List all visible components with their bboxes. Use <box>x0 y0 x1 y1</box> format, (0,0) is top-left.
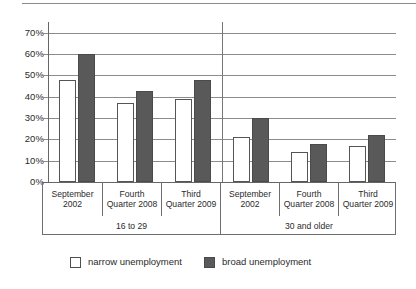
bar-broad-4 <box>310 144 327 182</box>
category-label-cell: FourthQuarter 2008 <box>102 182 161 216</box>
y-axis-tick-label: 30% <box>2 113 44 123</box>
category-label-cell: FourthQuarter 2008 <box>279 182 338 216</box>
chart-legend: narrow unemploymentbroad unemployment <box>70 255 311 269</box>
bar-narrow-1 <box>117 103 134 182</box>
category-label-line: Quarter 2008 <box>284 199 335 210</box>
category-label-line: Third <box>358 189 378 200</box>
chart-figure: 0%10%20%30%40%50%60%70% September2002Fou… <box>0 0 416 289</box>
category-label-cell: ThirdQuarter 2009 <box>338 182 397 216</box>
age-group-label: 16 to 29 <box>43 216 220 235</box>
y-axis-labels: 0%10%20%30%40%50%60%70% <box>0 22 44 182</box>
bar-broad-1 <box>136 91 153 182</box>
y-axis-tick-label: 40% <box>2 92 44 102</box>
legend-label: narrow unemployment <box>88 257 182 267</box>
category-label-line: 2002 <box>63 199 82 210</box>
y-axis-tick-label: 50% <box>2 70 44 80</box>
bar-narrow-0 <box>59 80 76 182</box>
bar-narrow-5 <box>349 146 366 182</box>
y-axis-tick-label: 10% <box>2 156 44 166</box>
legend-label: broad unemployment <box>222 257 311 267</box>
bar-narrow-2 <box>175 99 192 182</box>
top-divider-rule <box>22 3 416 4</box>
bar-broad-2 <box>194 80 211 182</box>
bar-narrow-4 <box>291 152 308 182</box>
category-label-line: Fourth <box>297 189 322 200</box>
category-label-line: Quarter 2008 <box>107 199 158 210</box>
age-group-label: 30 and older <box>220 216 397 235</box>
category-label-line: September <box>229 189 271 200</box>
bar-broad-3 <box>252 118 269 182</box>
bar-narrow-3 <box>233 137 250 182</box>
group-row: 16 to 2930 and older <box>43 216 395 235</box>
category-label-line: 2002 <box>240 199 259 210</box>
category-label-line: September <box>51 189 93 200</box>
category-row: September2002FourthQuarter 2008ThirdQuar… <box>43 182 395 216</box>
y-axis-tick-label: 60% <box>2 49 44 59</box>
bar-broad-0 <box>78 54 95 182</box>
category-label-cell: September2002 <box>43 182 102 216</box>
category-label-cell: September2002 <box>220 182 279 216</box>
legend-item: narrow unemployment <box>70 257 182 268</box>
category-label-line: Fourth <box>120 189 145 200</box>
legend-swatch-broad-icon <box>204 257 215 268</box>
bar-series-container <box>48 22 396 182</box>
category-label-line: Quarter 2009 <box>343 199 394 210</box>
legend-swatch-narrow-icon <box>70 257 81 268</box>
bar-broad-5 <box>368 135 385 182</box>
group-divider <box>222 22 223 182</box>
y-axis-tick-label: 20% <box>2 134 44 144</box>
category-label-line: Quarter 2009 <box>166 199 217 210</box>
category-label-line: Third <box>181 189 201 200</box>
category-label-table: September2002FourthQuarter 2008ThirdQuar… <box>42 182 396 235</box>
legend-item: broad unemployment <box>204 257 311 268</box>
category-label-cell: ThirdQuarter 2009 <box>161 182 220 216</box>
y-axis-tick-label: 70% <box>2 28 44 38</box>
plot-area <box>48 22 396 182</box>
y-axis-tick-label: 0% <box>2 177 44 187</box>
